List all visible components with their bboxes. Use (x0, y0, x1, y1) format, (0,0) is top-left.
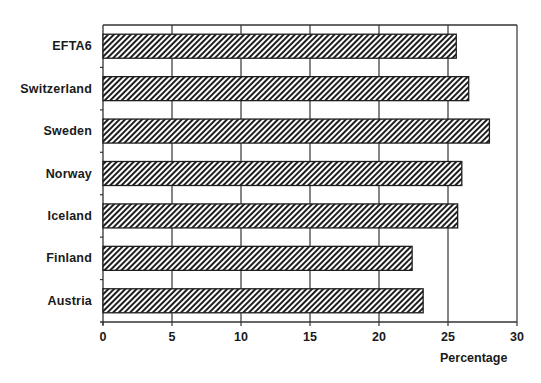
category-label-norway: Norway (46, 167, 92, 181)
x-tick-label-30: 30 (510, 330, 524, 344)
x-tick-label-0: 0 (100, 330, 107, 344)
bar-iceland (103, 204, 458, 228)
category-label-finland: Finland (46, 251, 92, 265)
x-tick-label-10: 10 (234, 330, 248, 344)
category-label-austria: Austria (48, 294, 92, 308)
bar-finland (103, 246, 412, 270)
category-label-switzerland: Switzerland (20, 82, 92, 96)
x-tick-label-15: 15 (303, 330, 317, 344)
chart-canvas (0, 0, 541, 383)
bar-efta6 (103, 34, 456, 58)
x-axis-title: Percentage (440, 351, 507, 365)
horizontal-bar-chart: EFTA6SwitzerlandSwedenNorwayIcelandFinla… (0, 0, 541, 383)
x-tick-label-25: 25 (441, 330, 455, 344)
bar-austria (103, 289, 423, 313)
category-label-iceland: Iceland (48, 209, 92, 223)
x-tick-label-5: 5 (169, 330, 176, 344)
bar-norway (103, 162, 462, 186)
bar-switzerland (103, 77, 469, 101)
category-label-efta6: EFTA6 (52, 39, 92, 53)
bars (103, 34, 489, 313)
bar-sweden (103, 119, 489, 143)
axis-ticks (100, 67, 517, 326)
category-label-sweden: Sweden (44, 124, 92, 138)
x-tick-label-20: 20 (372, 330, 386, 344)
